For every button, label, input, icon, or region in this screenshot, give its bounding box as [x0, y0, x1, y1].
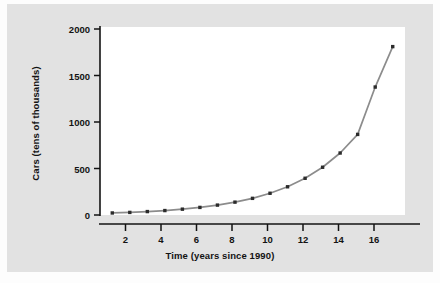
- x-tick-label-16: 16: [369, 234, 380, 245]
- data-point-marker: [338, 151, 341, 154]
- y-tick-label-500: 500: [55, 163, 90, 174]
- data-point-marker: [303, 177, 306, 180]
- data-point-marker: [374, 85, 377, 88]
- data-point-marker: [216, 203, 219, 206]
- data-point-marker: [198, 206, 201, 209]
- x-tick-label-2: 2: [123, 234, 128, 245]
- data-point-marker: [111, 211, 114, 214]
- x-axis-tick-marks: [126, 224, 375, 231]
- x-tick-label-8: 8: [229, 234, 234, 245]
- data-point-marker: [181, 207, 184, 210]
- data-point-marker: [233, 200, 236, 203]
- x-tick-label-6: 6: [194, 234, 199, 245]
- data-point-marker: [356, 133, 359, 136]
- data-point-marker: [146, 210, 149, 213]
- data-point-marker: [286, 185, 289, 188]
- y-tick-label-1000: 1000: [55, 117, 90, 128]
- data-point-marker: [321, 166, 324, 169]
- y-axis-tick-marks: [94, 29, 100, 215]
- y-tick-label-0: 0: [55, 210, 90, 221]
- data-point-marker: [163, 209, 166, 212]
- x-tick-label-4: 4: [158, 234, 163, 245]
- data-point-marker: [128, 211, 131, 214]
- x-tick-label-10: 10: [262, 234, 273, 245]
- data-point-marker: [391, 45, 394, 48]
- x-axis-title: Time (years since 1990): [0, 250, 440, 261]
- x-tick-label-12: 12: [298, 234, 309, 245]
- plot-area-background: [100, 27, 405, 215]
- y-axis-title: Cars (tens of thousands): [30, 44, 41, 204]
- x-tick-label-14: 14: [333, 234, 344, 245]
- data-point-marker: [251, 197, 254, 200]
- y-tick-label-2000: 2000: [55, 24, 90, 35]
- y-tick-label-1500: 1500: [55, 70, 90, 81]
- chart-screenshot: Cars (tens of thousands) Time (years sin…: [0, 0, 440, 283]
- data-point-marker: [268, 192, 271, 195]
